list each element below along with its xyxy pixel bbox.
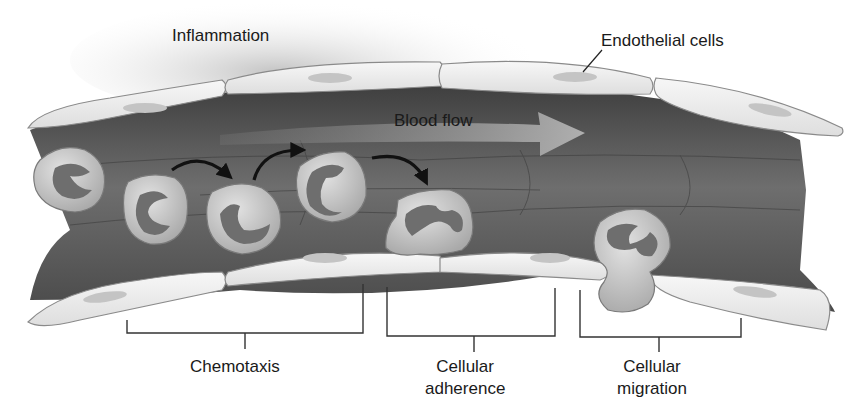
chemotaxis-label: Chemotaxis bbox=[190, 356, 280, 377]
cellular-adherence-line1: Cellular bbox=[425, 356, 505, 378]
leukocyte-3 bbox=[207, 184, 281, 254]
adherence-bracket bbox=[387, 287, 555, 352]
leukocyte-2 bbox=[124, 175, 188, 244]
endothelial-cells-label: Endothelial cells bbox=[601, 30, 724, 51]
cellular-adherence-label: Cellular adherence bbox=[425, 356, 505, 400]
cellular-migration-line2: migration bbox=[617, 378, 687, 400]
leukocyte-emigration-diagram bbox=[0, 0, 859, 417]
leukocyte-adhering bbox=[386, 190, 473, 255]
leukocyte-4 bbox=[296, 152, 366, 222]
cellular-adherence-line2: adherence bbox=[425, 378, 505, 400]
leukocyte-1 bbox=[34, 148, 105, 212]
leukocyte-migrating bbox=[594, 209, 670, 312]
inflammation-label: Inflammation bbox=[172, 25, 269, 46]
cellular-migration-line1: Cellular bbox=[617, 356, 687, 378]
blood-flow-label: Blood flow bbox=[394, 110, 472, 131]
cellular-migration-label: Cellular migration bbox=[617, 356, 687, 400]
endothelial-cell bbox=[439, 61, 653, 94]
